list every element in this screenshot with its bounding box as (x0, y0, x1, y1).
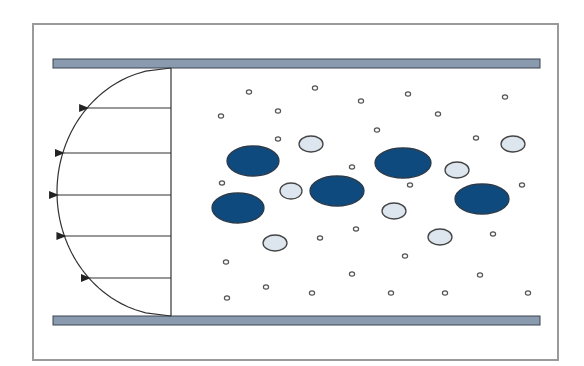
small-particle (405, 92, 410, 96)
medium-particle (280, 183, 302, 199)
small-particle (263, 285, 268, 289)
medium-particle (382, 203, 406, 219)
small-particle (349, 165, 354, 169)
medium-particle (299, 136, 323, 152)
large-particle (455, 184, 509, 214)
small-particle (349, 272, 354, 276)
small-particle (275, 109, 280, 113)
small-particle (525, 291, 530, 295)
small-particle (317, 236, 322, 240)
small-particle (275, 137, 280, 141)
top-plate (53, 59, 540, 68)
large-particle (375, 148, 431, 178)
small-particle (407, 183, 412, 187)
small-particle (388, 291, 393, 295)
bottom-plate (53, 316, 540, 325)
large-particle (227, 146, 279, 176)
small-particle (477, 273, 482, 277)
large-particle (212, 193, 264, 223)
small-particle (358, 99, 363, 103)
medium-particle (501, 136, 525, 152)
small-particle (312, 86, 317, 90)
small-particle (223, 260, 228, 264)
small-particle (218, 114, 223, 118)
medium-particle (445, 162, 469, 178)
small-particle (442, 291, 447, 295)
medium-particle (428, 229, 452, 245)
small-particle (402, 254, 407, 258)
small-particle (374, 128, 379, 132)
small-particle (435, 112, 440, 116)
small-particle (519, 183, 524, 187)
small-particle (502, 95, 507, 99)
small-particle (353, 227, 358, 231)
small-particle (246, 90, 251, 94)
laminar-flow-diagram (0, 0, 584, 366)
small-particle (490, 232, 495, 236)
small-particle (473, 136, 478, 140)
medium-particle (263, 235, 287, 251)
small-particle (224, 296, 229, 300)
large-particle (310, 176, 364, 206)
small-particle (219, 181, 224, 185)
small-particle (309, 291, 314, 295)
